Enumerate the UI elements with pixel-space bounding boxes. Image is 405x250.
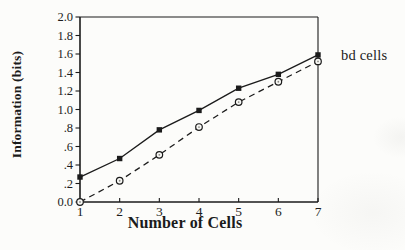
data-point-open-circle-center-dot [119, 180, 121, 182]
y-tick-label: 1.8 [57, 29, 73, 43]
y-tick-label: 1.2 [57, 84, 73, 98]
data-point-open-circle-center-dot [79, 201, 81, 203]
data-point-open-circle-center-dot [158, 154, 160, 156]
series-annotation-bd-cells: bd cells [341, 47, 387, 64]
data-point-open-circle-center-dot [238, 101, 240, 103]
data-point-filled-square [117, 156, 122, 161]
y-tick-label: .2 [64, 177, 73, 191]
y-tick-label: 2.0 [57, 10, 73, 24]
y-tick-label: 0.0 [57, 195, 73, 209]
data-point-open-circle-center-dot [317, 61, 319, 63]
data-point-filled-square [315, 52, 320, 57]
series-line-solid [80, 55, 318, 177]
data-point-filled-square [77, 174, 82, 179]
y-tick-label: 1.0 [57, 103, 73, 117]
series-line-dashed [80, 61, 318, 202]
x-tick-label: 6 [275, 204, 282, 219]
y-tick-label: .6 [64, 140, 73, 154]
data-point-filled-square [196, 108, 201, 113]
y-tick-label: 1.4 [57, 66, 73, 80]
data-point-filled-square [276, 72, 281, 77]
x-tick-label: 1 [77, 204, 84, 219]
line-chart-figure: 0.0.2.4.6.81.01.21.41.61.82.01234567 Inf… [0, 0, 405, 250]
y-tick-label: .8 [64, 121, 73, 135]
y-axis-label: Information (bits) [9, 35, 26, 175]
data-point-open-circle-center-dot [198, 126, 200, 128]
x-axis-title: Number of Cells [110, 214, 260, 232]
data-point-open-circle-center-dot [277, 81, 279, 83]
data-point-filled-square [157, 127, 162, 132]
y-tick-label: .4 [64, 158, 74, 172]
y-tick-label: 1.6 [57, 47, 73, 61]
data-point-filled-square [236, 86, 241, 91]
x-tick-label: 7 [315, 204, 322, 219]
chart-canvas: 0.0.2.4.6.81.01.21.41.61.82.01234567 [0, 0, 405, 250]
